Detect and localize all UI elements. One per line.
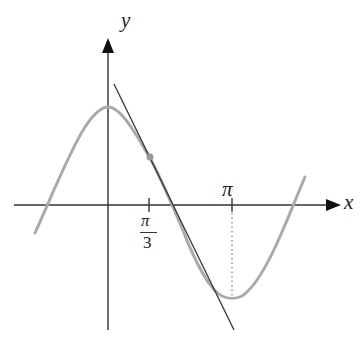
tangent-line	[114, 84, 234, 330]
tick-label-pi: π	[222, 177, 233, 202]
tick-label-pi-third-numerator: π	[141, 211, 150, 231]
cosine-curve	[35, 107, 305, 298]
x-axis-arrow-icon	[326, 199, 341, 211]
x-axis-label: x	[344, 190, 353, 215]
tick-label-pi-third-denominator: 3	[143, 233, 152, 253]
y-axis-arrow-icon	[102, 38, 114, 53]
tangent-point	[147, 154, 154, 161]
y-axis-label: y	[121, 8, 130, 33]
function-graph	[0, 0, 360, 351]
